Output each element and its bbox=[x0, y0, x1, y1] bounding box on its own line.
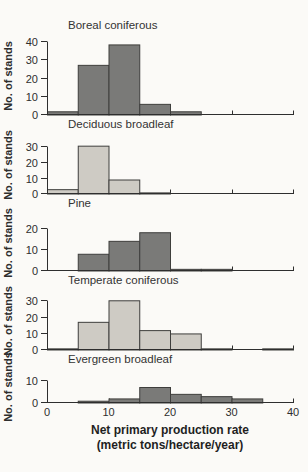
y-tick-label: 10 bbox=[26, 244, 38, 256]
y-axis-label: No. of stands bbox=[2, 41, 14, 111]
y-tick-label: 20 bbox=[26, 223, 38, 235]
histogram-bar bbox=[109, 180, 140, 194]
histogram-panel-evergreen-broadleaf: Evergreen broadleafNo. of stands010 bbox=[0, 350, 308, 403]
histogram-bar bbox=[140, 233, 171, 271]
histogram-bar bbox=[78, 322, 109, 350]
histogram-plot: No. of stands01020 bbox=[0, 215, 308, 271]
histogram-bar bbox=[171, 394, 202, 403]
histogram-bar bbox=[140, 388, 171, 404]
x-axis-title: Net primary production rate (metric tons… bbox=[47, 423, 293, 453]
histogram-bar bbox=[78, 254, 109, 271]
x-axis-tick-labels: 010203040 bbox=[0, 404, 308, 420]
panel-title: Temperate coniferous bbox=[68, 271, 308, 289]
forest-productivity-histograms-figure: Boreal coniferousNo. of stands010203040D… bbox=[0, 0, 308, 472]
y-tick-label: 40 bbox=[26, 36, 38, 48]
y-tick-label: 10 bbox=[26, 328, 38, 340]
y-tick-label: 20 bbox=[26, 73, 38, 85]
histogram-bar bbox=[140, 104, 171, 115]
panel-title: Evergreen broadleaf bbox=[68, 350, 308, 368]
y-tick-label: 10 bbox=[26, 375, 38, 387]
y-tick-label: 10 bbox=[26, 91, 38, 103]
y-tick-label: 10 bbox=[26, 173, 38, 185]
histogram-panel-pine: PineNo. of stands01020 bbox=[0, 194, 308, 271]
histogram-panel-deciduous-broadleaf: Deciduous broadleafNo. of stands0102030 bbox=[0, 115, 308, 194]
histogram-bar bbox=[109, 301, 140, 350]
histogram-plot: No. of stands010203040 bbox=[0, 37, 308, 115]
histogram-plot: No. of stands010 bbox=[0, 371, 308, 403]
panel-title: Deciduous broadleaf bbox=[68, 115, 308, 133]
histogram-bar bbox=[140, 331, 171, 350]
y-tick-label: 20 bbox=[26, 157, 38, 169]
x-tick-label: 20 bbox=[158, 406, 182, 418]
x-axis-title-line1: Net primary production rate bbox=[47, 423, 293, 438]
y-tick-label: 30 bbox=[26, 141, 38, 153]
x-tick-label: 10 bbox=[97, 406, 121, 418]
y-tick-label: 30 bbox=[26, 295, 38, 307]
histogram-plot: No. of stands0102030 bbox=[0, 136, 308, 194]
histogram-panel-temperate-coniferous: Temperate coniferousNo. of stands0102030 bbox=[0, 271, 308, 350]
panel-title: Pine bbox=[68, 194, 308, 212]
histogram-bar bbox=[78, 65, 109, 115]
y-tick-label: 30 bbox=[26, 54, 38, 66]
histogram-bar bbox=[171, 334, 202, 350]
histogram-plot: No. of stands0102030 bbox=[0, 292, 308, 350]
x-tick-label: 0 bbox=[35, 406, 59, 418]
histogram-panels: Boreal coniferousNo. of stands010203040D… bbox=[0, 16, 308, 403]
histogram-panel-boreal-coniferous: Boreal coniferousNo. of stands010203040 bbox=[0, 16, 308, 115]
histogram-bar bbox=[109, 45, 140, 115]
y-axis-label: No. of stands bbox=[2, 286, 14, 356]
y-axis-label: No. of stands bbox=[2, 208, 14, 278]
panel-title: Boreal coniferous bbox=[68, 16, 308, 34]
x-tick-label: 30 bbox=[220, 406, 244, 418]
x-axis-title-line2: (metric tons/hectare/year) bbox=[47, 438, 293, 453]
y-tick-label: 20 bbox=[26, 312, 38, 324]
y-axis-label: No. of stands bbox=[2, 130, 14, 200]
histogram-bar bbox=[109, 241, 140, 271]
histogram-bar bbox=[78, 146, 109, 194]
x-tick-label: 40 bbox=[281, 406, 305, 418]
